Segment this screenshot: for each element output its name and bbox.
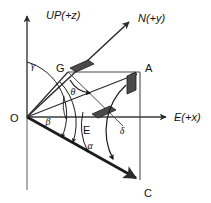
point-label-e: E [83, 124, 90, 136]
segment-OG [27, 72, 68, 117]
east-axis-label: E(+x) [174, 111, 201, 123]
angle-label-alpha: α [87, 140, 93, 151]
right-angle-marker-g-icon [70, 60, 94, 72]
point-label-a: A [145, 62, 153, 74]
angle-label-delta: δ [120, 125, 125, 136]
point-label-c: C [144, 187, 152, 199]
right-angle-marker-group [70, 60, 136, 118]
geodetic-angle-diagram: UP(+z) E(+x) N(+y) O G A E C γ θ β α δ [0, 0, 211, 203]
diagram-canvas: UP(+z) E(+x) N(+y) O G A E C γ θ β α δ [0, 0, 211, 203]
axis-group [27, 16, 166, 190]
up-axis-label: UP(+z) [46, 9, 81, 21]
right-angle-marker-a-icon [127, 72, 136, 94]
arc-delta [106, 85, 126, 159]
segment-OA [27, 74, 137, 117]
point-label-o: O [10, 112, 19, 124]
angle-label-beta: β [45, 116, 51, 127]
angle-label-theta: θ [71, 86, 76, 97]
point-label-g: G [56, 62, 65, 74]
north-axis-label: N(+y) [138, 12, 166, 24]
